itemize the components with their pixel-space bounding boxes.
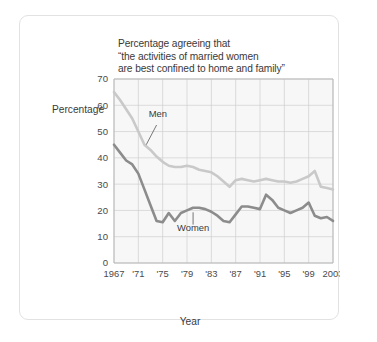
x-tick-label-1971: '71 <box>132 268 144 279</box>
annotation-label-men: Men <box>149 108 167 119</box>
x-tick-label-1983: '83 <box>205 268 217 279</box>
y-tick-labels: 010203040506070 <box>97 73 108 268</box>
x-tick-label-1991: '91 <box>254 268 266 279</box>
x-tick-labels: 1967'71'75'79'83'87'91'95'992003 <box>104 268 340 279</box>
chart-card: Percentage agreeing that “the activities… <box>19 15 339 320</box>
x-tick-label-1979: '79 <box>181 268 193 279</box>
y-tick-label-40: 40 <box>97 152 108 163</box>
y-tick-label-20: 20 <box>97 205 108 216</box>
x-tick-label-2003: 2003 <box>323 268 340 279</box>
x-axis-title: Year <box>20 316 360 327</box>
plot-background <box>114 79 333 263</box>
annotation-label-women: Women <box>177 222 209 233</box>
x-tick-label-1967: 1967 <box>104 268 125 279</box>
y-tick-label-10: 10 <box>97 231 108 242</box>
y-tick-label-50: 50 <box>97 126 108 137</box>
x-tick-label-1999: '99 <box>303 268 315 279</box>
y-tick-label-0: 0 <box>103 257 108 268</box>
x-tick-label-1975: '75 <box>157 268 169 279</box>
x-tick-label-1987: '87 <box>230 268 242 279</box>
y-tick-label-30: 30 <box>97 179 108 190</box>
x-tick-label-1995: '95 <box>278 268 290 279</box>
line-chart-plot: 010203040506070 1967'71'75'79'83'87'91'9… <box>20 16 340 321</box>
y-tick-label-60: 60 <box>97 100 108 111</box>
y-tick-label-70: 70 <box>97 73 108 84</box>
